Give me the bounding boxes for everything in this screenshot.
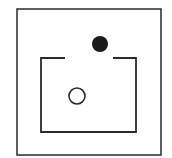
filled-circle-marker <box>92 36 108 52</box>
diagram-canvas <box>0 0 172 158</box>
open-circle-marker <box>69 88 85 104</box>
outer-box <box>17 9 161 155</box>
inner-box-open-top <box>41 58 136 132</box>
